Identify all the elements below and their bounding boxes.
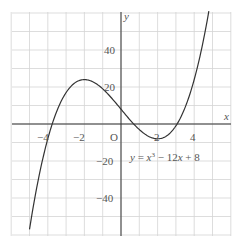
- cubic-curve: [30, 11, 209, 229]
- y-tick-20: 20: [104, 81, 116, 93]
- y-axis-label: y: [123, 10, 129, 22]
- y-tick-40: 40: [104, 44, 116, 56]
- x-tick-neg4: −4: [37, 131, 49, 143]
- x-tick-4: 4: [190, 131, 196, 143]
- x-axis-label: x: [223, 110, 229, 122]
- equation-label: y = x3 − 12x + 8: [129, 151, 200, 163]
- x-tick-2: 2: [154, 131, 160, 143]
- y-tick-neg40: −40: [96, 192, 114, 204]
- y-tick-neg20: −20: [96, 155, 114, 167]
- origin-label: O: [110, 131, 118, 143]
- x-tick-neg2: −2: [73, 131, 85, 143]
- graph: y x O −4 −2 2 4 40 20 −20 −40 y = x3 − 1…: [0, 0, 233, 237]
